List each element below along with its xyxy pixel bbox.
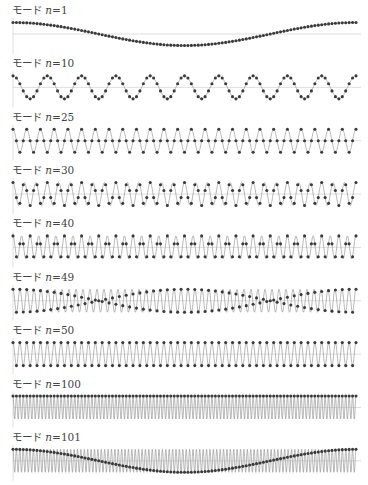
sample-point — [11, 341, 14, 344]
sample-point — [204, 128, 207, 131]
sample-point — [262, 364, 265, 367]
sample-point — [77, 28, 80, 31]
sample-point — [279, 242, 282, 245]
sample-point — [132, 364, 135, 367]
sample-point — [73, 394, 76, 397]
sample-point — [330, 183, 333, 186]
sample-point — [56, 242, 59, 245]
sample-point — [80, 341, 83, 344]
sample-point — [63, 139, 66, 142]
sample-point — [77, 303, 80, 306]
sample-point — [224, 41, 227, 44]
sample-point — [245, 37, 248, 40]
sample-point — [159, 470, 162, 473]
sample-point — [320, 181, 323, 184]
sample-point — [317, 394, 320, 397]
sample-point — [245, 304, 248, 307]
mode-panel-n1 — [11, 18, 361, 54]
sample-point — [183, 234, 186, 237]
sample-point — [210, 82, 213, 85]
sample-point — [351, 394, 354, 397]
sample-point — [11, 288, 14, 291]
sample-point — [258, 128, 261, 131]
sample-point — [32, 22, 35, 25]
sample-point — [204, 470, 207, 473]
sample-point — [272, 394, 275, 397]
sample-point — [228, 139, 231, 142]
sample-point — [101, 33, 104, 36]
sample-point — [344, 89, 347, 92]
sample-point — [241, 465, 244, 468]
sample-point — [101, 460, 104, 463]
sample-point — [183, 151, 186, 154]
sample-point — [169, 44, 172, 47]
sample-point — [83, 456, 86, 459]
sample-point — [107, 82, 110, 85]
sample-point — [320, 290, 323, 293]
sample-point — [238, 465, 241, 468]
sample-point — [186, 364, 189, 367]
sample-point — [49, 255, 52, 258]
sample-point — [252, 341, 255, 344]
sample-point — [66, 255, 69, 258]
sample-point — [80, 128, 83, 131]
sample-point — [25, 95, 28, 98]
sample-point — [25, 21, 28, 24]
sample-point — [97, 364, 100, 367]
sample-point — [276, 364, 279, 367]
sample-point — [354, 234, 357, 237]
sample-point — [276, 394, 279, 397]
sample-point — [90, 139, 93, 142]
sample-point — [145, 468, 148, 471]
sample-point — [255, 35, 258, 38]
sample-point — [159, 89, 162, 92]
sample-point — [300, 341, 303, 344]
sample-point — [63, 452, 66, 455]
sample-point — [200, 43, 203, 46]
sample-point — [289, 303, 292, 306]
sample-point — [231, 40, 234, 43]
sample-point — [156, 394, 159, 397]
sample-point — [265, 95, 268, 98]
sample-point — [183, 394, 186, 397]
sample-point — [25, 189, 28, 192]
sample-point — [173, 44, 176, 47]
sample-point — [70, 183, 73, 186]
sample-point — [200, 97, 203, 100]
sample-point — [83, 196, 86, 199]
sample-point — [279, 202, 282, 205]
sample-point — [310, 89, 313, 92]
sample-point — [101, 95, 104, 98]
sample-point — [114, 234, 117, 237]
sample-point — [42, 255, 45, 258]
sample-point — [97, 32, 100, 35]
sample-point — [306, 95, 309, 98]
sample-point — [18, 82, 21, 85]
sample-point — [121, 394, 124, 397]
sample-point — [238, 39, 241, 42]
sample-point — [190, 394, 193, 397]
sample-point — [186, 288, 189, 291]
sample-point — [77, 196, 80, 199]
sample-point — [300, 293, 303, 296]
sample-point — [162, 255, 165, 258]
sample-point — [334, 151, 337, 154]
sample-point — [142, 202, 145, 205]
sample-point — [73, 151, 76, 154]
sample-point — [94, 298, 97, 301]
sample-point — [183, 74, 186, 77]
sample-point — [22, 89, 25, 92]
sample-point — [296, 454, 299, 457]
sample-point — [265, 255, 268, 258]
sample-point — [118, 394, 121, 397]
sample-point — [114, 74, 117, 77]
sample-point — [245, 82, 248, 85]
sample-point — [159, 43, 162, 46]
sample-point — [11, 394, 14, 397]
sample-point — [125, 394, 128, 397]
sample-point — [142, 394, 145, 397]
sample-point — [118, 37, 121, 40]
sample-point — [162, 43, 165, 46]
sample-point — [258, 202, 261, 205]
sample-point — [214, 77, 217, 80]
